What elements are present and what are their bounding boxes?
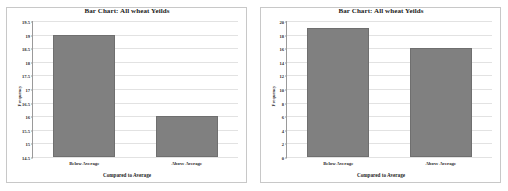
y-axis-title-right: Frequency [271, 85, 276, 106]
y-axis-tick-label: 19 [25, 33, 30, 38]
x-axis-title-right: Compared to Average [254, 172, 508, 178]
bar-slot: Above Average [153, 21, 221, 157]
y-axis-tick-label: 19.5 [22, 20, 30, 25]
x-axis-title-left: Compared to Average [0, 172, 254, 178]
chart-title-right: Bar Chart: All wheat Yeilds [254, 7, 508, 15]
bar [307, 28, 369, 157]
plot-area-right: 02468101214161820 Below AverageAbove Ave… [286, 21, 492, 158]
y-axis-tick-label: 15 [25, 142, 30, 147]
chart-pair-canvas: Bar Chart: All wheat Yeilds Frequency 14… [0, 0, 508, 191]
y-axis-tick-label: 17.5 [22, 74, 30, 79]
chart-panel-right: Bar Chart: All wheat Yeilds Frequency 02… [254, 0, 508, 191]
y-axis-tick-label: 20 [279, 20, 284, 25]
y-axis-tick-label: 17 [25, 88, 30, 93]
y-axis-tick-label: 16 [279, 47, 284, 52]
y-axis-tick-label: 18.5 [22, 47, 30, 52]
y-axis-tick-label: 18 [279, 33, 284, 38]
x-axis-category-label: Above Average [171, 161, 202, 166]
bar-group-left: Below AverageAbove Average [33, 21, 238, 157]
y-axis-tick-label: 2 [282, 142, 284, 147]
y-axis-tick-mark [285, 158, 287, 159]
y-axis-tick-label: 16.5 [22, 101, 30, 106]
y-axis-tick-label: 16 [25, 115, 30, 120]
plot-area-left: 14.51515.51616.51717.51818.51919.5 Below… [32, 21, 238, 158]
y-axis-tick-label: 15.5 [22, 128, 30, 133]
y-axis-tick-label: 6 [282, 115, 284, 120]
chart-title-left: Bar Chart: All wheat Yeilds [0, 7, 254, 15]
y-axis-tick-label: 0 [282, 156, 284, 161]
plot-frame-right: 02468101214161820 Below AverageAbove Ave… [286, 21, 492, 158]
y-axis-tick-label: 12 [279, 74, 284, 79]
x-axis-category-label: Above Average [425, 161, 456, 166]
y-axis-tick-label: 10 [279, 88, 284, 93]
bar-group-right: Below AverageAbove Average [287, 21, 492, 157]
bar-slot: Below Average [50, 21, 118, 157]
y-axis-tick-label: 14.5 [22, 156, 30, 161]
y-axis-tick-label: 14 [279, 60, 284, 65]
bar-slot: Above Average [407, 21, 475, 157]
y-axis-tick-label: 18 [25, 60, 30, 65]
y-axis-tick-label: 8 [282, 101, 284, 106]
gridline: 0 [287, 157, 492, 158]
y-axis-tick-mark [31, 158, 33, 159]
bar [156, 116, 218, 157]
x-axis-category-label: Below Average [69, 161, 99, 166]
y-axis-tick-label: 4 [282, 128, 284, 133]
x-axis-category-label: Below Average [323, 161, 353, 166]
bar-slot: Below Average [304, 21, 372, 157]
chart-panel-left: Bar Chart: All wheat Yeilds Frequency 14… [0, 0, 254, 191]
plot-frame-left: 14.51515.51616.51717.51818.51919.5 Below… [32, 21, 238, 158]
bar [410, 48, 472, 157]
gridline: 14.5 [33, 157, 238, 158]
bar [53, 35, 115, 157]
